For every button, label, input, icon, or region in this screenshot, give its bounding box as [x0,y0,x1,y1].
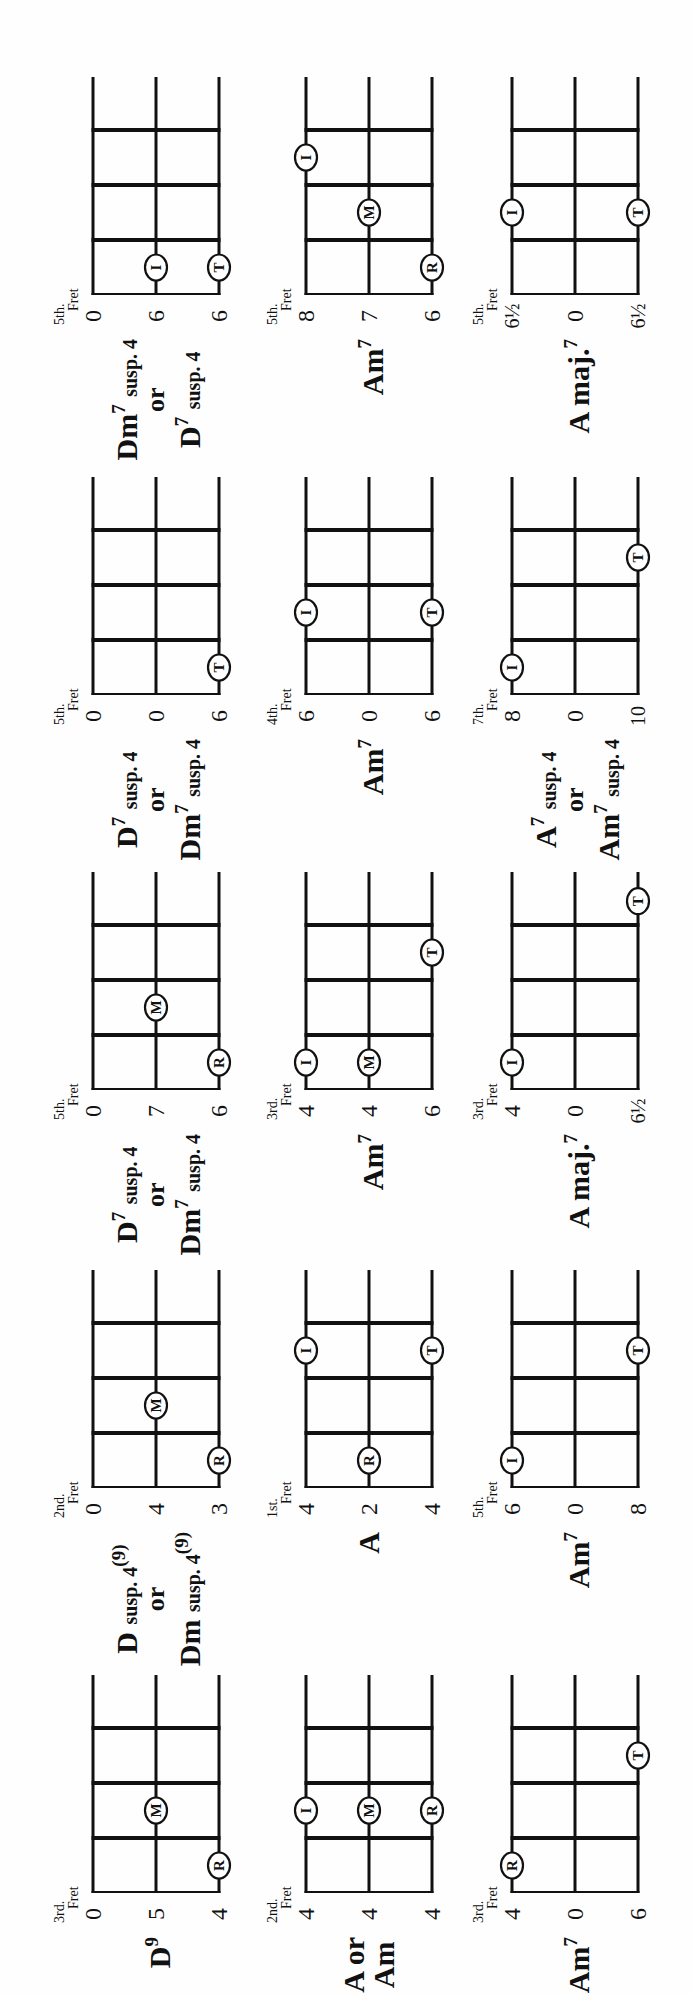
finger-T-marker: T [627,1338,649,1364]
chord-name: D7 susp. 4orDm7 susp. 4 [104,1134,208,1255]
svg-text:T: T [424,1345,440,1355]
string-fret-number: 0 [144,701,168,731]
finger-I-marker: I [295,600,317,626]
chord-diagram: MR5th.Fret076D7 susp. 4orDm7 susp. 4 [73,852,239,1090]
svg-text:I: I [148,264,164,270]
finger-T-marker: T [421,940,443,966]
fret-position-label: 2nd.Fret [266,1886,294,1923]
finger-M-marker: M [145,1393,167,1419]
string-fret-number: 0 [81,1494,105,1524]
fretboard-grid: IT [492,0,693,295]
fret-position-label: 7th.Fret [472,688,500,725]
svg-text:T: T [630,896,646,906]
string-fret-number: 4 [420,1899,444,1929]
svg-text:R: R [504,1860,520,1871]
string-fret-number: 6 [626,1899,650,1929]
svg-text:M: M [361,1803,377,1817]
chord-name: Am7 [350,1134,388,1190]
svg-text:R: R [424,262,440,273]
chord-diagram: IMR2nd.Fret444A orAm [286,1655,452,1893]
string-fret-number: 0 [563,701,587,731]
finger-T-marker: T [627,200,649,226]
fretboard-grid: IT [73,0,283,295]
chord-diagram: RIT1st.Fret424A [286,1250,452,1488]
svg-text:M: M [361,205,377,219]
finger-M-marker: M [145,995,167,1021]
finger-R-marker: R [421,1798,443,1824]
string-fret-number: 6 [420,701,444,731]
finger-T-marker: T [627,888,649,914]
svg-text:M: M [148,1000,164,1014]
finger-T-marker: T [421,1338,443,1364]
chord-name: A orAm [339,1937,399,1993]
fretboard-grid: IT [286,315,496,695]
svg-text:T: T [630,207,646,217]
string-fret-number: 4 [207,1899,231,1929]
svg-text:I: I [504,1457,520,1463]
string-fret-number: 4 [294,1899,318,1929]
finger-I-marker: I [501,1448,523,1474]
svg-text:R: R [361,1455,377,1466]
chord-name: A maj.7 [556,1134,594,1229]
svg-text:I: I [504,1059,520,1065]
fretboard-grid: IMT [286,710,496,1090]
string-fret-number: 4 [294,1494,318,1524]
finger-T-marker: T [627,1743,649,1769]
fret-position-label: 3rd.Fret [266,1083,294,1120]
svg-text:M: M [361,1055,377,1069]
string-fret-number: 0 [563,1494,587,1524]
chord-diagram: IT5th.Fret6½06½A maj.7 [492,57,658,295]
svg-text:I: I [504,209,520,215]
chord-diagram: IT4th.Fret606Am7 [286,457,452,695]
chord-chart-page: MR3rd.Fret054D9IMR2nd.Fret444A orAmRT3rd… [0,0,693,1994]
string-fret-number: 0 [563,301,587,331]
finger-M-marker: M [145,1798,167,1824]
chord-name: D9 [137,1937,175,1968]
finger-I-marker: I [501,655,523,681]
chord-diagram: T5th.Fret006D7 susp. 4orDm7 susp. 4 [73,457,239,695]
svg-text:T: T [424,607,440,617]
string-fret-number: 4 [357,1096,381,1126]
chord-diagram: RT3rd.Fret406Am7 [492,1655,658,1893]
chord-name: Am7 [556,1532,594,1588]
chord-name: A [354,1532,384,1554]
fret-position-label: 5th.Fret [53,1083,81,1120]
finger-T-marker: T [208,255,230,281]
chord-diagram: MR2nd.Fret043D susp. 4(9)orDm susp. 4(9) [73,1250,239,1488]
svg-text:R: R [211,1455,227,1466]
fret-position-label: 2nd.Fret [53,1481,81,1518]
finger-R-marker: R [421,255,443,281]
chord-diagram: IT5th.Fret066Dm7 susp. 4orD7 susp. 4 [73,57,239,295]
svg-text:T: T [211,662,227,672]
string-fret-number: 10 [626,697,650,735]
svg-text:M: M [148,1398,164,1412]
finger-I-marker: I [295,1338,317,1364]
finger-I-marker: I [295,1798,317,1824]
chord-name: A7 susp. 4orAm7 susp. 4 [523,739,627,860]
finger-R-marker: R [208,1050,230,1076]
fret-position-label: 5th.Fret [472,1481,500,1518]
fretboard-grid: RIT [286,1108,496,1488]
finger-T-marker: T [421,600,443,626]
fret-position-label: 5th.Fret [266,288,294,325]
chord-name: D susp. 4(9)orDm susp. 4(9) [104,1532,208,1666]
svg-text:I: I [298,1059,314,1065]
finger-T-marker: T [627,545,649,571]
string-fret-number: 4 [500,1096,524,1126]
finger-I-marker: I [501,200,523,226]
string-fret-number: 8 [294,301,318,331]
string-fret-number: 6 [420,301,444,331]
string-fret-number: 4 [294,1096,318,1126]
string-fret-number: 4 [357,1899,381,1929]
string-fret-number: 6 [420,1096,444,1126]
fret-position-label: 1st.Fret [266,1481,294,1518]
svg-text:I: I [298,154,314,160]
string-fret-number: 0 [81,1899,105,1929]
string-fret-number: 7 [144,1096,168,1126]
string-fret-number: 0 [81,1096,105,1126]
svg-text:I: I [298,609,314,615]
string-fret-number: 6 [500,1494,524,1524]
finger-R-marker: R [358,1448,380,1474]
finger-M-marker: M [358,200,380,226]
fretboard-grid: RMI [286,0,496,295]
